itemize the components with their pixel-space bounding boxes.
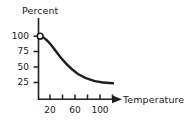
y-tick-label-75: 75: [3, 47, 29, 56]
chart-figure: Percent Temperature 100 75 50 25 20 60 1…: [0, 0, 191, 126]
x-axis-arrow-icon: [112, 95, 122, 103]
data-point-marker-start: [37, 33, 43, 39]
x-axis-title: Temperature: [123, 95, 184, 105]
y-tick-label-100: 100: [3, 32, 29, 41]
x-tick-label-60: 60: [63, 106, 87, 115]
x-tick-label-100: 100: [88, 106, 112, 115]
y-tick-label-25: 25: [3, 78, 29, 87]
data-curve-percent-vs-temperature: [41, 36, 113, 83]
x-tick-label-20: 20: [38, 106, 62, 115]
y-axis-title: Percent: [22, 6, 58, 16]
y-tick-label-50: 50: [3, 63, 29, 72]
